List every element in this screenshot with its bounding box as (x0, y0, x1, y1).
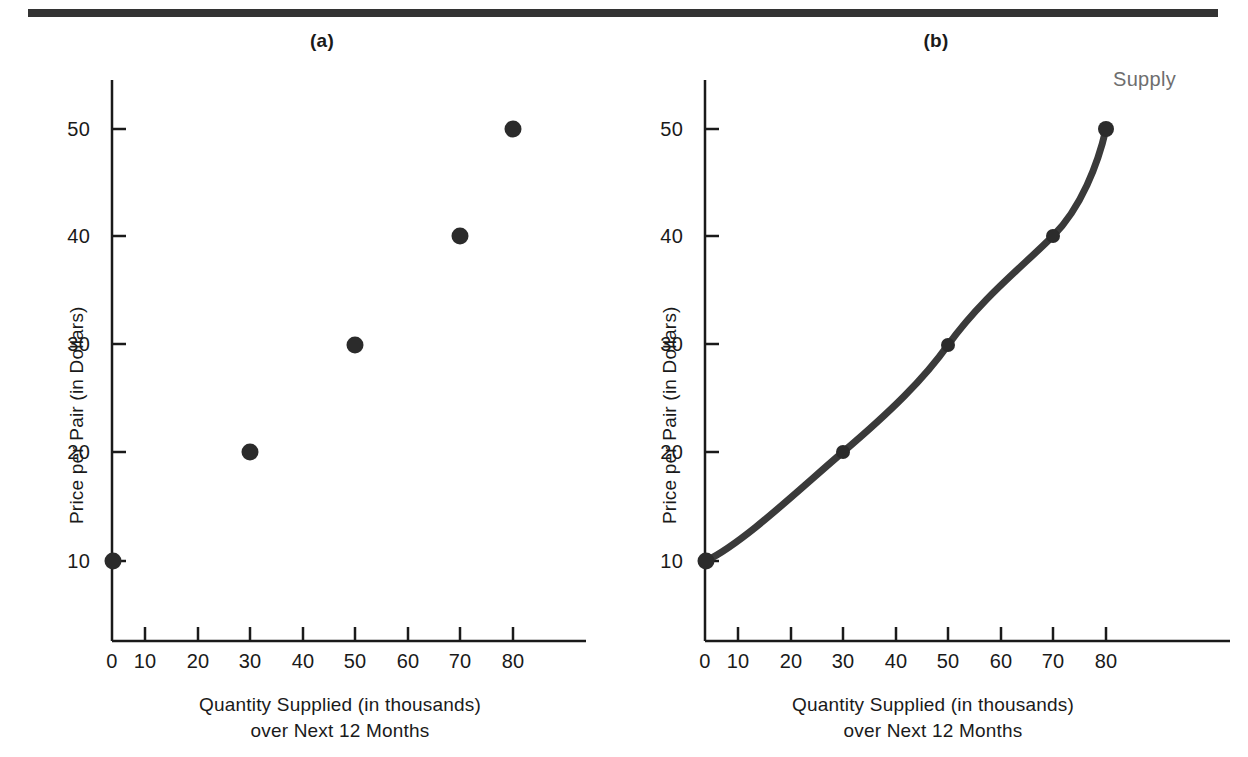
x-axis-ticks (145, 627, 513, 641)
x-tick-label-20: 20 (774, 650, 808, 673)
x-tick-label-80: 80 (496, 650, 530, 673)
panel-a-x-caption-line1: Quantity Supplied (in thousands) (199, 694, 481, 715)
x-tick-label-40: 40 (879, 650, 913, 673)
supply-curve-label: Supply (1113, 68, 1176, 91)
y-axis-ticks (112, 129, 126, 561)
x-tick-label-20: 20 (181, 650, 215, 673)
panel-a-x-axis-caption: Quantity Supplied (in thousands) over Ne… (120, 692, 560, 744)
scatter-points (105, 121, 522, 570)
panel-a-x-caption-line2: over Next 12 Months (250, 720, 429, 741)
y-axis-ticks (705, 129, 719, 561)
y-tick-label-50: 50 (56, 118, 90, 141)
x-tick-label-10: 10 (128, 650, 162, 673)
x-tick-label-10: 10 (721, 650, 755, 673)
top-rule-divider (28, 9, 1218, 17)
x-tick-label-60: 60 (984, 650, 1018, 673)
data-point (452, 228, 469, 245)
figure-page: (a) (0, 0, 1248, 757)
panel-a-plot (0, 24, 624, 744)
panel-b: (b) (624, 24, 1248, 744)
x-tick-label-40: 40 (286, 650, 320, 673)
data-point (1046, 229, 1060, 243)
data-point (105, 553, 122, 570)
y-tick-label-40: 40 (56, 225, 90, 248)
y-tick-label-40: 40 (649, 225, 683, 248)
y-tick-label-20: 20 (56, 441, 90, 464)
panel-b-x-axis-caption: Quantity Supplied (in thousands) over Ne… (713, 692, 1153, 744)
panel-b-plot (624, 24, 1248, 744)
y-tick-label-50: 50 (649, 118, 683, 141)
x-axis-ticks (738, 627, 1106, 641)
y-tick-label-10: 10 (649, 550, 683, 573)
panel-b-x-caption-line2: over Next 12 Months (843, 720, 1022, 741)
supply-curve (706, 129, 1106, 561)
x-tick-label-0: 0 (95, 650, 129, 673)
y-tick-label-30: 30 (56, 333, 90, 356)
x-tick-label-50: 50 (931, 650, 965, 673)
y-tick-label-20: 20 (649, 441, 683, 464)
x-tick-label-60: 60 (391, 650, 425, 673)
x-tick-label-30: 30 (233, 650, 267, 673)
y-tick-label-10: 10 (56, 550, 90, 573)
x-tick-label-50: 50 (338, 650, 372, 673)
curve-data-points (698, 121, 1115, 570)
data-point (242, 444, 259, 461)
x-tick-label-70: 70 (1036, 650, 1070, 673)
y-tick-label-30: 30 (649, 333, 683, 356)
x-tick-label-30: 30 (826, 650, 860, 673)
data-point (941, 338, 955, 352)
x-tick-label-80: 80 (1089, 650, 1123, 673)
data-point (836, 445, 850, 459)
x-tick-label-0: 0 (688, 650, 722, 673)
data-point (505, 121, 522, 138)
data-point (1098, 121, 1114, 137)
x-tick-label-70: 70 (443, 650, 477, 673)
panel-a: (a) (0, 24, 624, 744)
panel-b-x-caption-line1: Quantity Supplied (in thousands) (792, 694, 1074, 715)
data-point (347, 337, 364, 354)
data-point (698, 553, 715, 570)
